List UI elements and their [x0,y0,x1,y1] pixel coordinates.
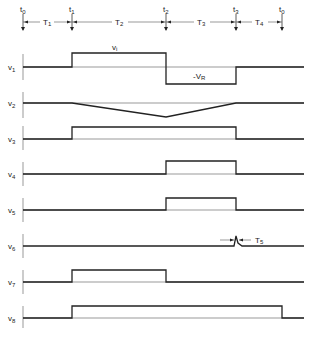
signal-label-v8: v8 [8,314,16,324]
marker-t0-right [280,14,284,31]
marker-t0-left [21,14,25,31]
time-axis: t0 t1 t2 t3 t0 T1 T2 T3 T4 [20,5,285,31]
signal-v8: v8 [8,306,304,328]
signal-label-v6: v6 [8,242,16,252]
signal-v7: v7 [8,270,304,294]
marker-t2 [164,14,168,31]
timing-diagram: t0 t1 t2 t3 t0 T1 T2 T3 T4 v1 vi -VR v2 … [0,0,314,337]
marker-t3 [234,14,238,31]
label-t1: t1 [69,5,75,15]
label-t2: t2 [163,5,169,15]
label-t3: t3 [233,5,239,15]
signal-label-v1: v1 [8,63,16,73]
signal-v6: T5 v6 [8,234,304,258]
signal-v2: v2 [8,92,304,118]
marker-t1 [70,14,74,31]
annotation-T5: T5 [255,236,264,245]
signal-v3: v3 [8,126,304,150]
signal-v1: v1 vi -VR [8,43,304,84]
signal-label-v3: v3 [8,135,16,145]
signal-label-v5: v5 [8,206,16,216]
signal-v5: v5 [8,198,304,222]
signal-v4: v4 [8,161,304,186]
signal-label-v2: v2 [8,99,16,109]
annotation-vi: vi [112,43,117,52]
signal-label-v4: v4 [8,170,16,180]
label-t0-left: t0 [20,5,26,15]
signal-label-v7: v7 [8,278,16,288]
annotation-vr: -VR [193,72,206,81]
label-t0-right: t0 [279,5,285,15]
